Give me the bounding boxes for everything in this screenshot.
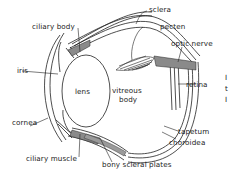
label-vitreous-line2: body xyxy=(119,95,137,104)
optic-nerve-shading xyxy=(154,56,196,70)
label-optic-nerve: optic nerve xyxy=(171,39,213,48)
label-bony-scleral-plates: bony scleral plates xyxy=(102,160,172,169)
label-tapetum: tapetum xyxy=(178,127,209,136)
label-choroidea: choroidea xyxy=(169,138,205,147)
label-retina: retina xyxy=(186,80,208,89)
edge-text-fragment-2: t xyxy=(225,84,228,93)
edge-text-fragment-1: I xyxy=(225,73,227,82)
edge-text-fragment-3: I xyxy=(225,95,227,104)
label-iris: iris xyxy=(17,66,28,75)
label-cornea: cornea xyxy=(12,118,37,127)
label-sclera: sclera xyxy=(149,5,171,14)
label-ciliary-muscle: ciliary muscle xyxy=(26,154,77,163)
label-ciliary-body: ciliary body xyxy=(32,22,75,31)
bony-scleral-plates-shading xyxy=(84,134,126,156)
bird-eye-diagram: ciliary body sclera pecten optic nerve i… xyxy=(0,0,230,183)
pecten-drawing xyxy=(116,56,154,70)
label-pecten: pecten xyxy=(160,22,185,31)
label-vitreous-line1: vitreous xyxy=(112,86,142,95)
label-lens: lens xyxy=(75,87,90,96)
